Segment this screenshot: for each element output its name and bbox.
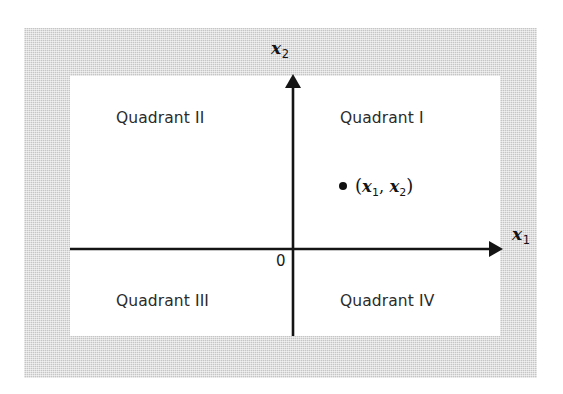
- x-axis-label-variable: x: [512, 224, 522, 244]
- open-paren: (: [355, 175, 362, 196]
- quadrant-label-ii: Quadrant II: [116, 111, 204, 127]
- origin-label: 0: [276, 254, 286, 269]
- quadrant-label-iii: Quadrant III: [116, 294, 209, 310]
- quadrant-label-i: Quadrant I: [340, 111, 424, 127]
- point-x-subscript: 1: [372, 186, 379, 199]
- figure-canvas: x2 x1 0 Quadrant I Quadrant II Quadrant …: [0, 0, 563, 394]
- point-y-subscript: 2: [399, 186, 406, 199]
- y-axis-label-variable: x: [271, 38, 281, 58]
- x-axis-label-subscript: 1: [523, 233, 530, 247]
- y-axis-label-subscript: 2: [282, 47, 289, 61]
- x-axis-label: x1: [512, 226, 529, 243]
- point-comma: ,: [379, 177, 390, 196]
- point-x-variable: x: [362, 177, 372, 196]
- point-y-variable: x: [389, 177, 399, 196]
- point-coordinate-label: (x1, x2): [355, 177, 413, 196]
- point-marker-dot: [339, 182, 347, 190]
- close-paren: ): [406, 175, 413, 196]
- quadrant-label-iv: Quadrant IV: [340, 294, 434, 310]
- y-axis-label: x2: [271, 40, 288, 57]
